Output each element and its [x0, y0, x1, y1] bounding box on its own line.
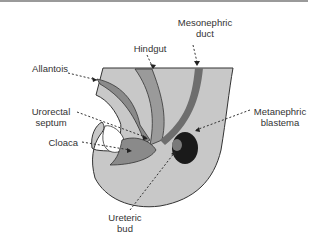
ureteric-bud-tip [172, 139, 182, 151]
label-line: septum [25, 117, 77, 128]
label-metanephric-blastema: Metanephric blastema [248, 106, 312, 128]
label-line: bud [100, 223, 150, 234]
label-allantois: Allantois [18, 63, 68, 74]
label-line: Urorectal [25, 106, 77, 117]
label-urorectal-septum: Urorectal septum [25, 106, 77, 128]
label-hindgut: Hindgut [125, 43, 175, 54]
label-line: blastema [248, 117, 312, 128]
label-ureteric-bud: Ureteric bud [100, 212, 150, 234]
label-line: duct [175, 28, 235, 39]
label-cloaca: Cloaca [30, 137, 78, 148]
label-line: Ureteric [100, 212, 150, 223]
label-line: Metanephric [248, 106, 312, 117]
label-mesonephric-duct: Mesonephric duct [175, 17, 235, 39]
label-line: Mesonephric [175, 17, 235, 28]
